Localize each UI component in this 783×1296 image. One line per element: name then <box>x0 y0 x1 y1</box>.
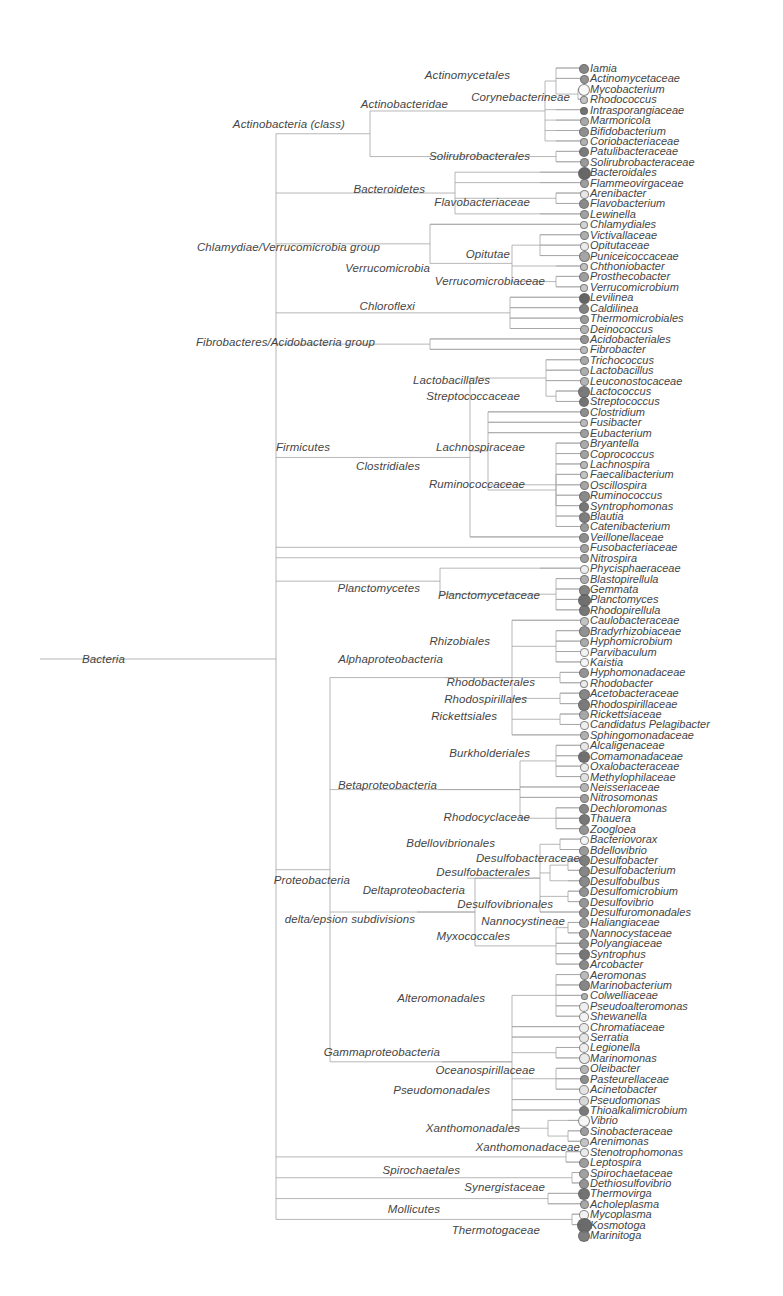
internal-node-label: Opitutae <box>466 248 510 260</box>
tip-node-marker <box>580 575 589 584</box>
tip-node-marker <box>580 836 589 845</box>
tip-node-marker <box>580 315 589 324</box>
tip-node-marker <box>579 605 590 616</box>
tip-node-marker <box>580 731 589 740</box>
internal-node-label: Chlamydiae/Verrucomicrobia group <box>197 241 380 253</box>
internal-node-label: Ruminococcaceae <box>429 478 525 490</box>
internal-node-label: Deltaproteobacteria <box>363 884 465 896</box>
tip-node-marker <box>579 293 590 304</box>
tip-node-marker <box>579 1096 589 1106</box>
tip-node-marker <box>580 1138 589 1147</box>
tip-node-marker <box>579 846 589 856</box>
internal-node-label: Planctomycetes <box>337 582 420 594</box>
internal-node-label: Oceanospirillaceae <box>435 1064 535 1076</box>
tip-node-marker <box>578 699 590 711</box>
tip-node-marker <box>580 763 589 772</box>
internal-node-label: Pseudomonadales <box>393 1084 490 1096</box>
tip-node-marker <box>579 804 589 814</box>
tip-node-marker <box>581 993 588 1000</box>
internal-node-label: Bdellovibrionales <box>406 837 495 849</box>
tip-node-marker <box>580 450 589 459</box>
internal-node-label: Verrucomicrobiaceae <box>435 275 545 287</box>
tip-node-marker <box>580 1065 589 1074</box>
tip-node-marker <box>580 179 589 188</box>
tip-node-marker <box>579 1002 589 1012</box>
tip-node-marker <box>580 325 589 334</box>
tip-node-marker <box>579 929 589 939</box>
internal-node-label: Burkholderiales <box>449 747 530 759</box>
internal-node-label: Desulfobacterales <box>436 866 530 878</box>
tip-label: Marinitoga <box>590 1230 641 1241</box>
internal-node-label: Spirochaetales <box>383 1164 460 1176</box>
tip-node-marker <box>580 263 588 271</box>
internal-node-label: Gammaproteobacteria <box>324 1046 440 1058</box>
tip-node-marker <box>579 533 589 543</box>
tip-node-marker <box>579 980 590 991</box>
tip-node-marker <box>579 626 590 637</box>
tip-node-marker <box>579 898 589 908</box>
tip-node-marker <box>578 386 590 398</box>
tip-node-marker <box>579 251 590 262</box>
tip-node-marker <box>580 440 589 449</box>
tip-node-marker <box>579 127 589 137</box>
tip-node-marker <box>580 210 589 219</box>
tip-node-marker <box>580 742 589 751</box>
tip-node-marker <box>580 231 589 240</box>
tip-node-marker <box>580 377 589 386</box>
internal-node-label: Clostridiales <box>356 460 420 472</box>
tip-node-marker <box>580 158 589 167</box>
tip-node-marker <box>578 84 590 96</box>
internal-node-label: Thermotogaceae <box>452 1224 540 1236</box>
internal-node-label: Streptococcaceae <box>426 390 520 402</box>
tip-node-marker <box>580 1148 589 1157</box>
tip-node-marker <box>579 512 590 523</box>
tip-node-marker <box>579 876 590 887</box>
tip-node-marker <box>579 1023 589 1033</box>
internal-node-label: Myxococcales <box>437 930 510 942</box>
tip-node-marker <box>580 335 589 344</box>
tip-node-marker <box>580 190 589 199</box>
tip-node-marker <box>580 794 589 803</box>
tip-node-marker <box>579 825 589 835</box>
tip-node-marker <box>580 138 588 146</box>
internal-node-label: Rhizobiales <box>429 635 490 647</box>
tip-node-marker <box>580 565 589 574</box>
internal-node-label: Xanthomonadales <box>426 1122 520 1134</box>
tip-node-marker <box>580 971 589 980</box>
tip-node-marker <box>580 1075 589 1084</box>
internal-node-label: Desulfovibrionales <box>457 898 553 910</box>
tip-node-marker <box>580 523 589 532</box>
tip-node-marker <box>580 648 589 657</box>
internal-node-label: Bacteria <box>82 653 125 665</box>
tip-node-marker <box>580 617 589 626</box>
tip-node-marker <box>580 1200 589 1209</box>
internal-node-label: Corynebacterineae <box>471 91 570 103</box>
tip-node-marker <box>580 783 589 792</box>
tip-node-marker <box>580 429 589 438</box>
internal-node-label: Firmicutes <box>276 441 330 453</box>
tip-node-marker <box>580 721 589 730</box>
internal-node-label: Mollicutes <box>388 1203 440 1215</box>
tip-node-marker <box>580 773 589 782</box>
tip-node-marker <box>579 855 590 866</box>
internal-node-label: Proteobacteria <box>274 874 350 886</box>
internal-node-label: Flavobacteriaceae <box>434 196 530 208</box>
tip-node-marker <box>579 502 589 512</box>
tip-node-marker <box>580 408 589 417</box>
tip-node-marker <box>580 107 588 115</box>
tip-node-marker <box>580 461 588 469</box>
tip-node-marker <box>580 356 589 365</box>
internal-node-label: Rickettsiales <box>431 710 497 722</box>
tip-node-marker <box>579 814 590 825</box>
internal-node-label: Planctomycetaceae <box>438 589 540 601</box>
tip-node-marker <box>579 491 590 502</box>
tip-node-marker <box>580 658 589 667</box>
tip-node-marker <box>579 64 589 74</box>
tip-node-marker <box>580 481 589 490</box>
tip-node-marker <box>580 367 589 376</box>
tip-node-marker <box>580 638 589 647</box>
tip-node-marker <box>580 117 589 126</box>
tip-node-marker <box>580 680 588 688</box>
tip-node-marker <box>579 866 590 877</box>
internal-node-label: Lactobacillales <box>413 374 490 386</box>
